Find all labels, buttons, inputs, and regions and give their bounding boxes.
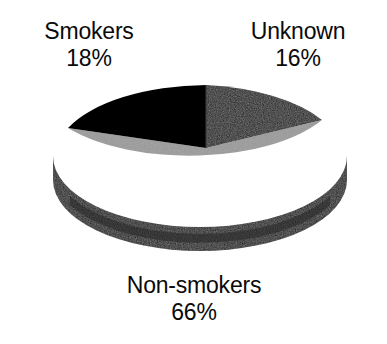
label-non-smokers-name: Non-smokers [78,272,310,299]
pie-top-face [68,85,322,156]
pie-chart: Smokers 18% Unknown 16% Non-smokers 66% [0,0,387,344]
label-non-smokers: Non-smokers 66% [78,272,310,325]
label-unknown-value: 16% [218,45,378,72]
label-non-smokers-value: 66% [78,299,310,326]
label-unknown: Unknown 16% [218,18,378,71]
label-unknown-name: Unknown [218,18,378,45]
label-smokers-value: 18% [6,45,172,72]
label-smokers-name: Smokers [6,18,172,45]
label-smokers: Smokers 18% [6,18,172,71]
pie-side-wall [53,156,347,251]
